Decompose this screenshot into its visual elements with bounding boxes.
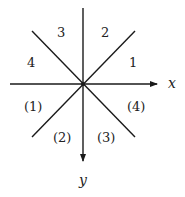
region-label-1: 1	[129, 55, 137, 70]
octant-diagram: x y 1 2 3 4 (1) (2) (3) (4)	[0, 0, 185, 197]
origin-point	[81, 82, 85, 86]
region-label-paren-2: (2)	[53, 130, 71, 145]
region-label-paren-3: (3)	[97, 130, 115, 145]
region-label-paren-4: (4)	[127, 99, 145, 114]
region-label-3: 3	[57, 25, 65, 40]
region-label-paren-1: (1)	[24, 99, 42, 114]
y-axis-label: y	[78, 172, 88, 188]
region-label-2: 2	[101, 25, 109, 40]
region-label-4: 4	[27, 55, 35, 70]
x-axis-label: x	[168, 75, 176, 91]
